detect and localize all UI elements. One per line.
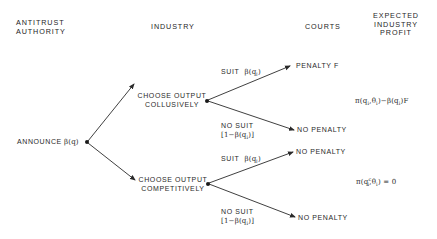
equals-zero: ) = 0	[378, 178, 397, 186]
root-announce-label: ANNOUNCE	[17, 138, 62, 147]
choice-collusive: CHOOSE OUTPUT COLLUSIVELY	[137, 92, 207, 109]
choice-competitive-line2: COMPETITIVELY	[137, 185, 209, 194]
competitive-nosuit-label: NO SUIT [1−β(qi)]	[221, 208, 254, 225]
nosuit-text: NO SUIT	[221, 122, 254, 131]
nosuit-prob: [1−β(q	[221, 217, 247, 225]
collusive-nosuit-label: NO SUIT [1−β(qi)]	[221, 122, 254, 139]
choice-collusive-line1: CHOOSE OUTPUT	[137, 92, 207, 101]
nosuit-prob-close: )]	[248, 131, 254, 139]
edge-root-collusive	[88, 84, 134, 141]
outcome-penalty-f: PENALTY F	[296, 62, 339, 71]
outcome-collusive-no-penalty: NO PENALTY	[297, 126, 347, 135]
suit-text: SUIT	[221, 155, 239, 162]
penalty: )F	[401, 97, 409, 105]
header-profit-line3: PROFIT	[362, 29, 430, 38]
profit-collusive-formula: π(qi,θi)−β(qi)F	[355, 97, 409, 106]
nosuit-text: NO SUIT	[221, 208, 254, 217]
choice-competitive-line1: CHOOSE OUTPUT	[137, 176, 209, 185]
header-expected-profit: EXPECTED INDUSTRY PROFIT	[362, 12, 430, 38]
nosuit-prob-close: )]	[248, 217, 254, 225]
suit-prob: β(q	[244, 68, 256, 76]
header-antitrust-authority: ANTITRUST AUTHORITY	[16, 19, 66, 36]
edge-root-competitive	[88, 143, 135, 180]
node-root	[85, 140, 89, 144]
pi: π(q	[355, 97, 367, 105]
profit-competitive-formula: π(qci,θi) = 0	[356, 178, 396, 187]
suit-prob-close: )	[258, 68, 261, 76]
nosuit-prob: [1−β(q	[221, 131, 247, 139]
minus-beta: )−β(q	[378, 97, 399, 105]
choice-competitive: CHOOSE OUTPUT COMPETITIVELY	[137, 176, 209, 193]
outcome-competitive-nosuit-no-penalty: NO PENALTY	[298, 214, 348, 223]
outcome-competitive-suit-no-penalty: NO PENALTY	[296, 148, 346, 157]
header-industry: INDUSTRY	[151, 23, 195, 32]
suit-text: SUIT	[221, 68, 239, 75]
suit-prob: β(q	[244, 155, 256, 163]
header-courts: COURTS	[305, 23, 341, 32]
suit-prob-close: )	[258, 155, 261, 163]
competitive-suit-label: SUIT β(qi)	[221, 155, 261, 164]
header-authority-line2: AUTHORITY	[16, 28, 66, 37]
root-policy-label: β(q)	[64, 138, 79, 147]
collusive-suit-label: SUIT β(qi)	[221, 68, 261, 77]
choice-collusive-line2: COLLUSIVELY	[137, 101, 207, 110]
